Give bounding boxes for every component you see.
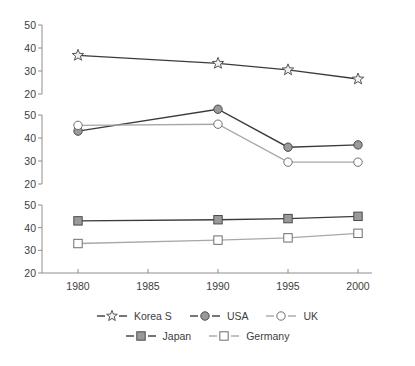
data-point-japan-1990 (214, 216, 222, 224)
data-point-korea-s-2000 (352, 73, 363, 84)
legend-item-label: Japan (163, 331, 192, 342)
y-axis-tick-label: 20 (2, 179, 36, 190)
legend-item-label: UK (303, 311, 318, 322)
data-point-korea-s-1990 (212, 57, 223, 68)
legend-item-japan[interactable]: Japan (126, 329, 192, 343)
y-axis-tick-label: 50 (2, 200, 36, 211)
legend-marker-japan (126, 329, 156, 343)
legend-item-label: Germany (246, 331, 289, 342)
legend-row: Korea SUSAUK (0, 306, 415, 326)
chart-panel-middle (0, 90, 415, 190)
x-axis-tick-label: 1985 (128, 281, 168, 292)
legend-marker-uk (266, 309, 296, 323)
x-axis-tick-label: 2000 (338, 281, 378, 292)
legend-marker-korea-s (97, 309, 127, 323)
y-axis-tick-label: 20 (2, 268, 36, 279)
legend-marker-usa (190, 309, 220, 323)
data-point-uk-2000 (354, 158, 362, 166)
data-point-germany-2000 (354, 229, 362, 237)
y-axis-tick-label: 40 (2, 43, 36, 54)
x-axis-tick-label: 1995 (268, 281, 308, 292)
data-point-japan-1980 (74, 217, 82, 225)
legend-item-germany[interactable]: Germany (209, 329, 289, 343)
data-point-germany-1980 (74, 239, 82, 247)
legend-marker-germany (209, 329, 239, 343)
data-point-uk-1990 (214, 120, 222, 128)
y-axis-tick-label: 50 (2, 110, 36, 121)
legend-item-usa[interactable]: USA (190, 309, 249, 323)
data-point-korea-s-1995 (282, 64, 293, 75)
legend-row: JapanGermany (0, 326, 415, 346)
x-axis-tick-label: 1980 (58, 281, 98, 292)
multi-panel-line-chart: 19801985199019952000 2030405020304050203… (0, 0, 415, 366)
y-axis-tick-label: 30 (2, 156, 36, 167)
legend-item-label: Korea S (134, 311, 172, 322)
data-point-germany-1990 (214, 236, 222, 244)
data-point-usa-2000 (354, 141, 362, 149)
data-point-uk-1995 (284, 158, 292, 166)
y-axis-tick-label: 30 (2, 66, 36, 77)
data-point-germany-1995 (284, 234, 292, 242)
x-axis-tick-label: 1990 (198, 281, 238, 292)
y-axis-tick-label: 50 (2, 20, 36, 31)
chart-legend: Korea SUSAUK JapanGermany (0, 306, 415, 346)
y-axis-tick-label: 20 (2, 89, 36, 100)
series-line-uk (78, 124, 358, 162)
y-axis-tick-label: 30 (2, 245, 36, 256)
data-point-japan-2000 (354, 212, 362, 220)
data-point-uk-1980 (74, 121, 82, 129)
y-axis-tick-label: 40 (2, 223, 36, 234)
data-point-usa-1990 (214, 105, 222, 113)
y-axis-tick-label: 40 (2, 133, 36, 144)
legend-item-korea-s[interactable]: Korea S (97, 309, 172, 323)
data-point-korea-s-1980 (72, 49, 83, 60)
data-point-usa-1995 (284, 143, 292, 151)
data-point-japan-1995 (284, 214, 292, 222)
chart-panel-top (0, 0, 415, 100)
panel-top-plot (0, 0, 415, 100)
panel-middle-plot (0, 90, 415, 190)
legend-item-label: USA (227, 311, 249, 322)
legend-item-uk[interactable]: UK (266, 309, 318, 323)
